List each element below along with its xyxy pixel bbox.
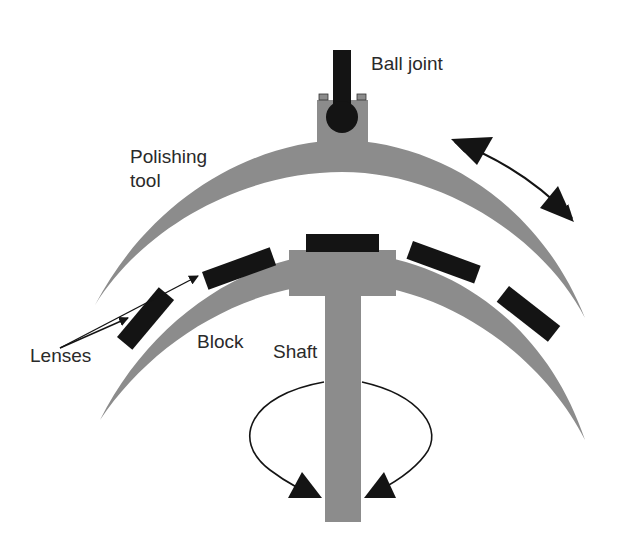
polishing-machine-diagram [0,0,623,552]
shaft-rotation-arrow [250,382,324,496]
label-polishing-tool-line2: tool [130,170,161,192]
lenses-leader-arrow-2 [60,318,128,348]
label-lenses: Lenses [30,345,91,367]
shaft [325,280,361,522]
housing-tab-right [357,94,366,100]
rotation-arrowhead-right [364,472,396,498]
label-block: Block [197,331,243,353]
oscillation-arrowhead-top [451,137,493,165]
lens-top [306,234,379,252]
label-polishing-tool-line1: Polishing [130,146,207,168]
label-shaft: Shaft [273,341,317,363]
housing-tab-left [319,94,328,100]
oscillation-arrowhead-bottom [540,186,574,222]
ball-joint-ball [326,101,358,133]
label-ball-joint: Ball joint [371,53,443,75]
shaft-rotation-arrow-right [362,382,432,496]
